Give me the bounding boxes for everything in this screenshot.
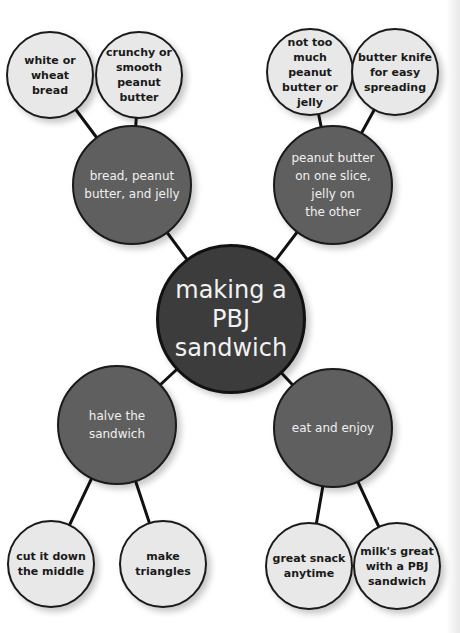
node-label: butter knife for easy spreading [354, 50, 436, 95]
node-label: make triangles [121, 549, 205, 579]
node-label: milk's great with a PBJ sandwich [356, 544, 438, 589]
node-label: white or wheat bread [8, 53, 92, 98]
leaf-node-cut-middle: cut it down the middle [7, 520, 95, 608]
node-label: bread, peanut butter, and jelly [80, 167, 183, 203]
branch-node-ingredients: bread, peanut butter, and jelly [72, 125, 192, 245]
node-label: great snack anytime [269, 551, 350, 581]
node-label: cut it down the middle [12, 549, 90, 579]
leaf-node-peanut-butter-type: crunchy or smooth peanut butter [95, 31, 183, 119]
node-label: halve the sandwich [85, 407, 149, 443]
center-node: making a PBJ sandwich [156, 244, 306, 394]
node-label: not too much peanut butter or jelly [268, 35, 352, 110]
leaf-node-triangles: make triangles [119, 520, 207, 608]
node-label: crunchy or smooth peanut butter [97, 45, 181, 105]
center-label: making a PBJ sandwich [171, 276, 291, 363]
leaf-node-not-too-much: not too much peanut butter or jelly [266, 28, 354, 116]
leaf-node-bread-type: white or wheat bread [6, 31, 94, 119]
leaf-node-great-snack: great snack anytime [265, 522, 353, 610]
node-label: peanut butter on one slice, jelly on the… [287, 149, 378, 221]
branch-node-eat: eat and enjoy [273, 368, 393, 488]
leaf-node-butter-knife: butter knife for easy spreading [351, 28, 439, 116]
leaf-node-milk: milk's great with a PBJ sandwich [353, 522, 441, 610]
branch-node-spread: peanut butter on one slice, jelly on the… [273, 125, 393, 245]
node-label: eat and enjoy [288, 419, 378, 437]
branch-node-halve: halve the sandwich [57, 365, 177, 485]
